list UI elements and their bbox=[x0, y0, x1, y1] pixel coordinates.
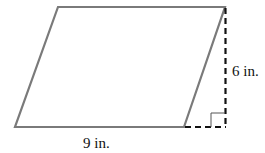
parallelogram-diagram: 6 in. 9 in. bbox=[0, 0, 265, 153]
height-label: 6 in. bbox=[232, 63, 259, 80]
base-label: 9 in. bbox=[83, 135, 110, 152]
right-angle-marker bbox=[211, 113, 225, 127]
parallelogram-shape bbox=[15, 7, 225, 127]
diagram-graphics bbox=[0, 0, 265, 153]
